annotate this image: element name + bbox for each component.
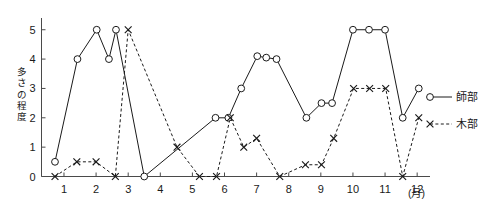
data-point-marker	[93, 158, 100, 165]
data-point-marker	[350, 26, 357, 33]
x-tick-label: 1	[61, 183, 67, 195]
data-point-marker	[415, 114, 422, 121]
data-point-marker	[330, 135, 337, 142]
data-point-marker	[303, 114, 310, 121]
x-axis-tick-labels: 123456789101112	[61, 183, 423, 195]
y-axis-label-char: 程	[17, 100, 27, 111]
data-point-marker	[318, 161, 325, 168]
data-point-marker	[253, 135, 260, 142]
data-point-marker	[240, 144, 247, 151]
y-tick-label: 4	[29, 53, 35, 65]
data-point-marker	[273, 56, 280, 63]
y-axis-label-char: さ	[17, 77, 27, 88]
data-point-marker	[93, 26, 100, 33]
x-tick-label: 2	[93, 183, 99, 195]
data-point-marker	[302, 161, 309, 168]
x-tick-label: 5	[189, 183, 195, 195]
data-point-marker	[263, 54, 270, 61]
chart-legend: 師部木部	[427, 90, 478, 130]
data-point-marker	[106, 56, 113, 63]
y-tick-label: 5	[29, 24, 35, 36]
data-point-marker	[141, 173, 148, 180]
data-point-marker	[382, 26, 389, 33]
y-axis-label-char: 度	[17, 111, 27, 122]
legend-marker-師部	[427, 94, 434, 101]
x-tick-label: 11	[379, 183, 390, 195]
x-tick-label: 3	[125, 183, 131, 195]
data-point-marker	[329, 100, 336, 107]
x-tick-label: 7	[254, 183, 260, 195]
legend-label-木部: 木部	[456, 117, 478, 130]
x-tick-label: 8	[286, 183, 292, 195]
data-point-marker	[74, 56, 81, 63]
y-axis-label-char: の	[17, 89, 27, 100]
data-point-marker	[238, 85, 245, 92]
x-tick-label: 4	[157, 183, 163, 195]
data-point-marker	[212, 114, 219, 121]
x-tick-label: 10	[347, 183, 359, 195]
y-axis-label-char: 多	[17, 66, 27, 77]
y-axis-tick-labels: 012345	[29, 24, 35, 183]
data-point-marker	[399, 114, 406, 121]
data-point-marker	[52, 158, 59, 165]
data-point-marker	[125, 26, 132, 33]
series-line-師部	[55, 30, 419, 177]
x-tick-label: 9	[318, 183, 324, 195]
series-line-木部	[55, 30, 419, 177]
line-chart: 多さの程度 012345 123456789101112 (月) 師部木部	[0, 0, 478, 211]
data-point-marker	[318, 100, 325, 107]
x-axis-unit-label: (月)	[408, 187, 425, 199]
series-markers	[52, 26, 423, 180]
y-axis-tickmarks	[42, 30, 46, 177]
legend-label-師部: 師部	[456, 90, 478, 103]
data-point-marker	[366, 26, 373, 33]
data-point-marker	[113, 26, 120, 33]
y-tick-label: 2	[29, 112, 35, 124]
y-tick-label: 0	[29, 171, 35, 183]
data-point-marker	[254, 53, 261, 60]
chart-canvas: 多さの程度 012345 123456789101112 (月) 師部木部	[0, 0, 478, 211]
y-tick-label: 1	[29, 141, 35, 153]
data-point-marker	[415, 85, 422, 92]
y-tick-label: 3	[29, 82, 35, 94]
series-lines	[55, 30, 419, 177]
y-axis-label: 多さの程度	[17, 66, 27, 122]
x-tick-label: 6	[221, 183, 227, 195]
